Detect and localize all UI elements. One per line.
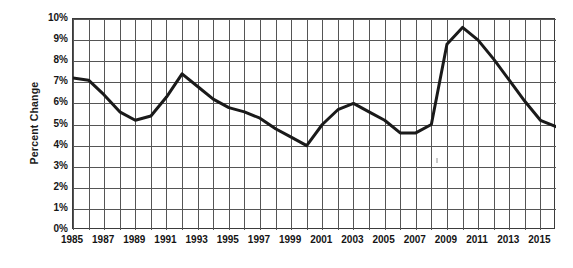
x-tick-label: 2015: [519, 234, 559, 246]
y-tick-label: 3%: [36, 161, 68, 171]
scan-speck: [436, 158, 438, 163]
data-series-line: [73, 19, 556, 230]
y-tick-label: 5%: [36, 119, 68, 129]
y-axis-tick-labels: 10%9%8%7%6%5%4%3%2%1%0%: [36, 18, 68, 229]
plot-area: [72, 18, 555, 229]
line-chart: Percent Change 10%9%8%7%6%5%4%3%2%1%0% 1…: [0, 0, 573, 268]
y-tick-label: 1%: [36, 203, 68, 213]
y-tick-label: 10%: [36, 13, 68, 23]
x-axis-tick-labels: 1985198719891991199319951997199920012003…: [72, 234, 555, 250]
series-polyline: [73, 27, 556, 145]
y-tick-label: 4%: [36, 140, 68, 150]
y-tick-label: 2%: [36, 182, 68, 192]
y-tick-label: 0%: [36, 224, 68, 234]
y-tick-label: 7%: [36, 76, 68, 86]
y-tick-label: 8%: [36, 55, 68, 65]
y-tick-label: 9%: [36, 34, 68, 44]
y-tick-label: 6%: [36, 97, 68, 107]
